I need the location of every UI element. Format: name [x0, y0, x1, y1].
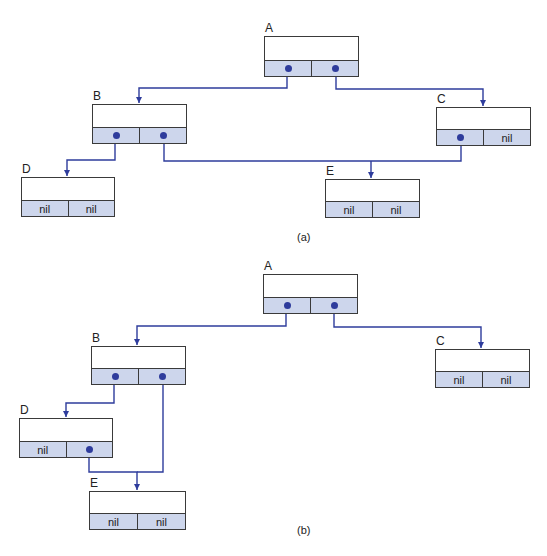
node-a-b [263, 274, 358, 314]
left-nil-field: nil [436, 372, 482, 387]
node-label-b-b: B [92, 332, 100, 344]
arrowhead-icon [63, 411, 69, 417]
node-label-d-b: D [20, 404, 29, 416]
arrowhead-icon [64, 170, 70, 176]
pointer-line-b-right-to-e-a [164, 136, 461, 161]
arrowhead-icon [134, 484, 140, 490]
node-d-b: nil [19, 418, 113, 458]
arrowhead-icon [134, 339, 140, 345]
right-pointer-dot-icon [138, 369, 185, 384]
arrowhead-icon [478, 342, 484, 348]
node-label-c-a: C [437, 93, 446, 105]
linked-tree-figure: ABCnilDnilnilEnilnilABCnilnilDnilEnilnil… [0, 0, 547, 556]
arrowhead-icon [136, 97, 142, 103]
node-b-b [91, 346, 186, 385]
left-nil-field: nil [22, 201, 68, 216]
pointer-fields [265, 60, 358, 76]
pointer-fields: nilnil [90, 513, 185, 529]
left-nil-field: nil [20, 442, 66, 457]
left-pointer-dot-icon [264, 298, 310, 313]
pointer-fields [264, 297, 357, 313]
arrowhead-icon [480, 100, 486, 106]
pointer-fields [92, 368, 185, 384]
pointer-fields: nilnil [326, 201, 419, 217]
left-pointer-dot-icon [265, 61, 311, 76]
node-label-a-b: A [264, 260, 272, 272]
pointer-fields: nilnil [22, 200, 114, 216]
right-nil-field: nil [483, 130, 530, 145]
caption-b: (b) [297, 524, 310, 536]
pointer-fields: nilnil [436, 371, 529, 387]
node-label-c-b: C [436, 335, 445, 347]
node-c-a: nil [436, 107, 531, 146]
left-pointer-dot-icon [92, 369, 138, 384]
node-c-b: nilnil [435, 349, 530, 388]
right-pointer-dot-icon [310, 298, 357, 313]
node-e-a: nilnil [325, 179, 420, 218]
right-pointer-dot-icon [311, 61, 358, 76]
node-label-e-b: E [90, 477, 98, 489]
node-a-a [264, 36, 359, 77]
node-label-d-a: D [22, 163, 31, 175]
caption-a: (a) [297, 231, 310, 243]
node-label-b-a: B [93, 90, 101, 102]
right-nil-field: nil [137, 514, 185, 529]
pointer-fields: nil [437, 129, 530, 145]
node-label-a-a: A [265, 22, 273, 34]
left-nil-field: nil [326, 202, 372, 217]
right-nil-field: nil [482, 372, 529, 387]
node-label-e-a: E [326, 165, 334, 177]
left-nil-field: nil [90, 514, 137, 529]
left-pointer-dot-icon [93, 128, 139, 143]
right-pointer-dot-icon [139, 128, 186, 143]
pointer-line-b-right-to-e-b [137, 378, 163, 472]
pointer-fields: nil [20, 441, 112, 457]
right-pointer-dot-icon [66, 442, 113, 457]
pointer-fields [93, 127, 186, 143]
node-d-a: nilnil [21, 177, 115, 217]
node-e-b: nilnil [89, 491, 186, 530]
right-nil-field: nil [372, 202, 419, 217]
left-pointer-dot-icon [437, 130, 483, 145]
node-b-a [92, 104, 187, 144]
arrowhead-icon [368, 172, 374, 178]
right-nil-field: nil [68, 201, 115, 216]
